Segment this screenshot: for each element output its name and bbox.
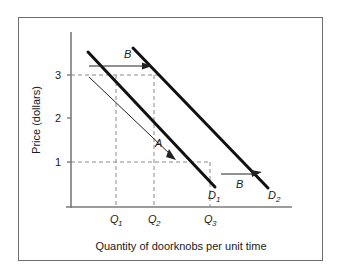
d1-letter: D: [208, 189, 216, 201]
chart-canvas: 3 2 1 Q 1 Q 2 Q 3 D 1 D: [0, 0, 339, 278]
x-axis-title: Quantity of doorknobs per unit time: [95, 240, 266, 252]
annotation-label-b-bottom: B: [236, 178, 243, 190]
demand-curve-figure: 3 2 1 Q 1 Q 2 Q 3 D 1 D: [0, 0, 339, 278]
y-tick-label-3: 3: [55, 69, 61, 81]
annotation-label-b-top: B: [124, 48, 131, 60]
y-tick-label-1: 1: [55, 156, 61, 168]
q3-subscript: 3: [212, 219, 217, 228]
d2-subscript: 2: [275, 195, 281, 204]
d2-letter: D: [268, 189, 276, 201]
q1-subscript: 1: [118, 219, 122, 228]
q2-subscript: 2: [155, 219, 161, 228]
annotation-label-a: A: [154, 137, 162, 149]
y-tick-label-2: 2: [55, 112, 61, 124]
d1-subscript: 1: [216, 195, 220, 204]
y-axis-title: Price (dollars): [30, 86, 42, 154]
